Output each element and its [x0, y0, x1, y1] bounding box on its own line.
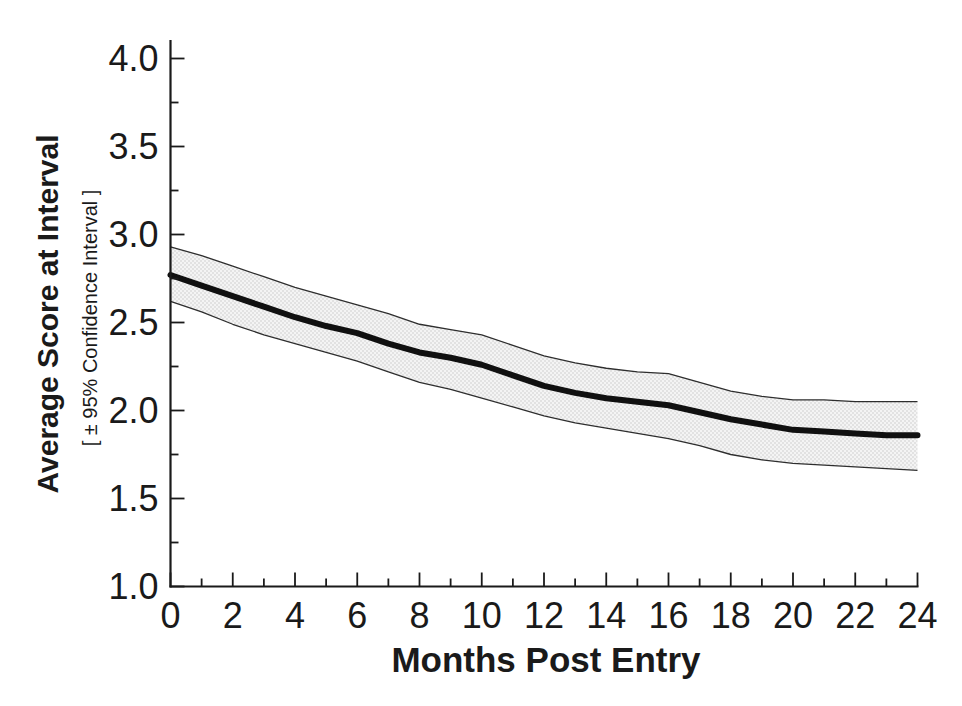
y-axis-subtitle: [ ± 95% Confidence Interval ]: [79, 190, 101, 447]
y-tick-label: 2.5: [108, 302, 158, 343]
line-chart: 0246810121416182022241.01.52.02.53.03.54…: [0, 0, 962, 706]
tick-label-layer: 0246810121416182022241.01.52.02.53.03.54…: [108, 38, 937, 636]
x-tick-label: 0: [160, 595, 180, 636]
x-tick-label: 6: [347, 595, 367, 636]
x-tick-label: 14: [586, 595, 626, 636]
y-axis-title: Average Score at Interval: [31, 134, 64, 493]
y-tick-label: 4.0: [108, 38, 158, 79]
x-axis-title: Months Post Entry: [391, 640, 701, 679]
x-tick-label: 12: [524, 595, 564, 636]
x-tick-label: 22: [835, 595, 875, 636]
y-tick-label: 3.0: [108, 214, 158, 255]
figure: 0246810121416182022241.01.52.02.53.03.54…: [0, 0, 962, 706]
y-tick-label: 2.0: [108, 390, 158, 431]
y-tick-label: 1.0: [108, 566, 158, 607]
x-tick-label: 18: [711, 595, 751, 636]
y-tick-label: 3.5: [108, 126, 158, 167]
x-tick-label: 20: [773, 595, 813, 636]
confidence-band-layer: [171, 247, 918, 471]
x-tick-label: 16: [648, 595, 688, 636]
x-tick-label: 24: [897, 595, 937, 636]
x-tick-label: 8: [409, 595, 429, 636]
confidence-band: [171, 247, 918, 471]
x-tick-label: 10: [462, 595, 502, 636]
x-tick-label: 4: [285, 595, 305, 636]
y-tick-label: 1.5: [108, 478, 158, 519]
x-tick-label: 2: [223, 595, 243, 636]
